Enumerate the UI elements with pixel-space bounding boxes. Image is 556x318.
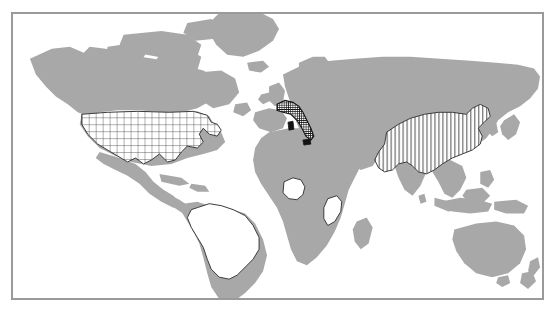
map-frame-border	[11, 12, 544, 300]
italy-sicily[interactable]	[303, 139, 311, 145]
world-map-svg	[12, 13, 543, 299]
world-map-figure	[0, 0, 556, 318]
highlight-nigeria[interactable]	[283, 178, 305, 200]
italy-sardinia[interactable]	[288, 121, 294, 130]
